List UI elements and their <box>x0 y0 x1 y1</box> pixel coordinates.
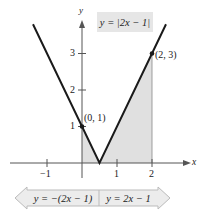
y-axis-arrow-icon <box>79 20 85 28</box>
equation-label: y = |2x − 1| <box>97 12 153 32</box>
x-axis-arrow-icon <box>183 160 191 166</box>
x-tick-label-neg1: −1 <box>40 169 51 179</box>
equation-text: y = |2x − 1| <box>100 17 150 28</box>
x-axis-label: x <box>192 158 196 168</box>
point-0-1 <box>80 124 85 129</box>
y-tick-label-3: 3 <box>70 48 75 58</box>
y-axis-label: y <box>79 6 83 15</box>
banner-right-equation: y = 2x − 1 <box>99 191 158 206</box>
point-label-0-1: (0, 1) <box>84 113 106 123</box>
x-tick-label-1: 1 <box>114 169 119 179</box>
graph-canvas <box>0 0 203 218</box>
banner-left-equation: y = −(2x − 1) <box>27 191 99 206</box>
point-label-2-3: (2, 3) <box>155 50 177 60</box>
x-tick-label-2: 2 <box>149 169 154 179</box>
y-tick-label-2: 2 <box>70 85 75 95</box>
point-2-3 <box>150 51 155 56</box>
y-tick-label-1: 1 <box>70 121 75 131</box>
